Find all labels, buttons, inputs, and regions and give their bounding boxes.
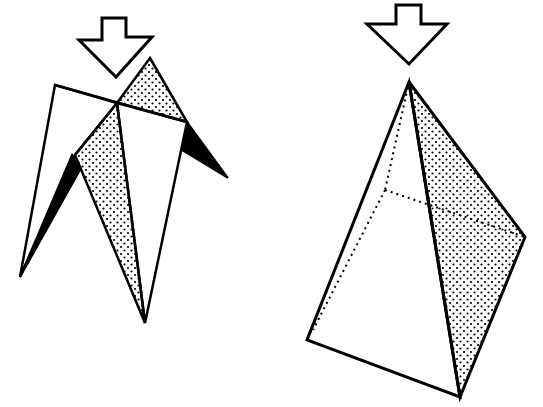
origami-diagram <box>0 0 543 407</box>
right-black-flap <box>182 122 228 178</box>
push-down-arrow-icon <box>367 5 447 64</box>
step-left <box>20 18 228 323</box>
step-right <box>307 5 525 397</box>
